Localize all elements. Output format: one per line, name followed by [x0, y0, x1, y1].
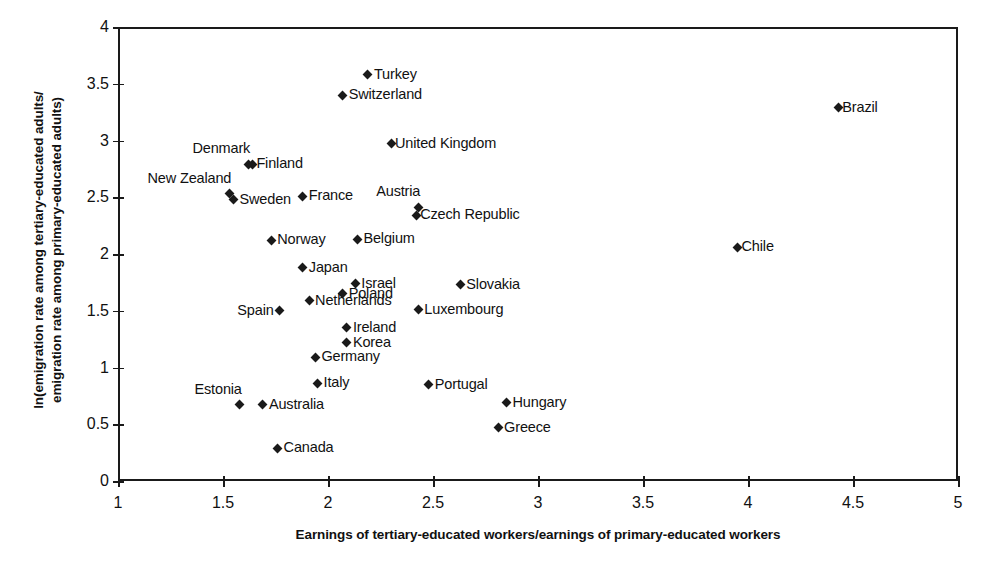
- data-point-marker: [338, 90, 348, 100]
- data-point-label: Portugal: [435, 376, 488, 392]
- scatter-chart-figure: ln(emigration rate among tertiary-educat…: [0, 0, 984, 567]
- data-point-label: France: [309, 187, 353, 203]
- data-point-label: Luxembourg: [424, 301, 503, 317]
- x-axis-title: Earnings of tertiary-educated workers/ea…: [118, 527, 958, 542]
- data-point-marker: [363, 70, 373, 80]
- data-point-marker: [493, 423, 503, 433]
- data-point-label: Germany: [321, 348, 380, 364]
- data-point-label: Netherlands: [315, 292, 392, 308]
- data-point-label: Estonia: [194, 381, 241, 397]
- data-point-label: Italy: [324, 374, 350, 390]
- data-point-marker: [342, 323, 352, 333]
- y-axis-tick-label: 0: [49, 471, 109, 490]
- data-point-label: Denmark: [192, 140, 250, 156]
- y-axis-tick-label: 1.5: [49, 301, 109, 320]
- data-point-marker: [273, 443, 283, 453]
- data-point-label: Spain: [237, 302, 273, 318]
- data-point-marker: [298, 263, 308, 273]
- data-point-marker: [235, 400, 245, 410]
- data-point-label: Turkey: [374, 66, 417, 82]
- data-point-label: Brazil: [842, 99, 877, 115]
- x-axis-tick-label: 2: [298, 493, 358, 512]
- x-axis-tick-mark: [223, 476, 225, 487]
- data-point-label: Norway: [277, 231, 325, 247]
- data-point-label: Australia: [269, 396, 324, 412]
- data-point-label: Chile: [742, 238, 774, 254]
- data-point-label: Slovakia: [466, 276, 520, 292]
- x-axis-tick-label: 4: [718, 493, 778, 512]
- data-point-marker: [275, 306, 285, 316]
- data-point-label: Austria: [376, 183, 420, 199]
- data-point-label: New Zealand: [148, 170, 232, 186]
- data-point-marker: [310, 352, 320, 362]
- data-point-marker: [229, 195, 239, 205]
- x-axis-tick-mark: [118, 476, 120, 487]
- y-axis-tick-label: 3.5: [49, 74, 109, 93]
- data-point-marker: [313, 378, 323, 388]
- data-point-label: Ireland: [353, 319, 396, 335]
- y-axis-tick-label: 2: [49, 244, 109, 263]
- data-point-label: Switzerland: [349, 86, 422, 102]
- x-axis-tick-mark: [853, 476, 855, 487]
- data-point-marker: [413, 305, 423, 315]
- data-point-marker: [266, 235, 276, 245]
- y-axis-tick-mark: [113, 424, 124, 426]
- axis-right-line: [956, 27, 958, 481]
- data-point-label: United Kingdom: [395, 135, 496, 151]
- data-point-marker: [342, 338, 352, 348]
- y-axis-tick-mark: [113, 311, 124, 313]
- x-axis-tick-mark: [643, 476, 645, 487]
- x-axis-tick-label: 1.5: [193, 493, 253, 512]
- data-point-label: Korea: [353, 334, 391, 350]
- data-point-label: Japan: [309, 259, 348, 275]
- x-axis-tick-label: 5: [928, 493, 984, 512]
- data-point-marker: [352, 234, 362, 244]
- y-axis-tick-label: 1: [49, 358, 109, 377]
- y-axis-tick-mark: [113, 84, 124, 86]
- data-point-label: Sweden: [240, 191, 292, 207]
- data-point-marker: [298, 191, 308, 201]
- data-point-marker: [258, 400, 268, 410]
- data-point-marker: [455, 280, 465, 290]
- x-axis-tick-mark: [748, 476, 750, 487]
- y-axis-tick-label: 3: [49, 131, 109, 150]
- data-point-label: Finland: [256, 155, 303, 171]
- x-axis-tick-label: 4.5: [823, 493, 883, 512]
- y-axis-tick-mark: [113, 141, 124, 143]
- data-point-label: Czech Republic: [420, 206, 519, 222]
- x-axis-tick-label: 3.5: [613, 493, 673, 512]
- axis-top-line: [118, 27, 958, 29]
- data-point-marker: [502, 398, 512, 408]
- data-point-marker: [424, 380, 434, 390]
- data-point-label: Belgium: [363, 230, 414, 246]
- x-axis-tick-mark: [538, 476, 540, 487]
- y-axis-tick-label: 0.5: [49, 414, 109, 433]
- y-axis-tick-mark: [113, 197, 124, 199]
- x-axis-tick-mark: [433, 476, 435, 487]
- data-point-label: Canada: [284, 439, 334, 455]
- y-axis-tick-mark: [113, 368, 124, 370]
- data-point-label: Hungary: [513, 394, 567, 410]
- y-axis-tick-label: 2.5: [49, 187, 109, 206]
- data-point-label: Greece: [504, 419, 551, 435]
- x-axis-tick-label: 1: [88, 493, 148, 512]
- x-axis-tick-mark: [958, 476, 960, 487]
- y-axis-tick-mark: [113, 27, 124, 29]
- x-axis-tick-label: 3: [508, 493, 568, 512]
- x-axis-tick-label: 2.5: [403, 493, 463, 512]
- x-axis-tick-mark: [328, 476, 330, 487]
- y-axis-tick-mark: [113, 254, 124, 256]
- data-point-marker: [304, 296, 314, 306]
- plot-area: 00.511.522.533.54 11.522.533.544.55 Turk…: [118, 27, 958, 481]
- y-axis-tick-label: 4: [49, 17, 109, 36]
